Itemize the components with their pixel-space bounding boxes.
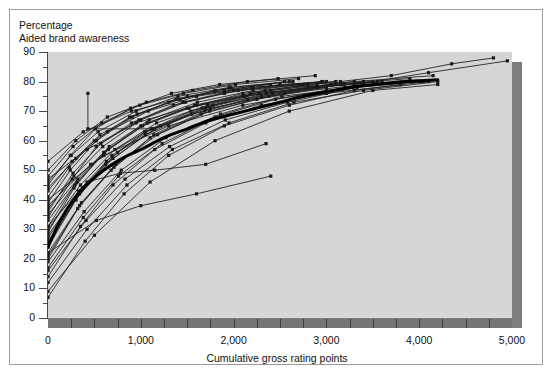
data-point-marker — [48, 281, 50, 284]
data-point-marker — [353, 80, 356, 83]
data-point-marker — [82, 216, 85, 219]
data-point-marker — [362, 89, 365, 92]
data-point-marker — [72, 175, 75, 178]
data-point-marker — [48, 198, 50, 201]
data-point-marker — [101, 145, 104, 148]
data-point-marker — [371, 89, 374, 92]
data-point-marker — [161, 142, 164, 145]
data-point-marker — [86, 92, 89, 95]
data-point-marker — [280, 95, 283, 98]
x-tick-label: 5,000 — [482, 334, 542, 346]
data-point-marker — [106, 115, 109, 118]
data-point-marker — [48, 204, 50, 207]
data-point-marker — [145, 101, 148, 104]
data-point-marker — [209, 107, 212, 110]
data-point-marker — [195, 104, 198, 107]
data-point-marker — [130, 110, 133, 113]
data-point-marker — [186, 95, 189, 98]
data-point-marker — [224, 118, 227, 121]
data-point-marker — [48, 189, 50, 192]
data-point-marker — [189, 110, 192, 113]
series-20 — [48, 80, 425, 263]
y-tick-major — [39, 229, 48, 230]
y-tick-label: 60 — [5, 134, 35, 146]
x-band-tick — [442, 319, 443, 328]
data-point-marker — [432, 74, 435, 77]
data-point-marker — [97, 130, 100, 133]
data-point-marker — [213, 139, 216, 142]
data-point-marker — [229, 86, 232, 89]
y-tick-label: 10 — [5, 281, 35, 293]
data-point-marker — [125, 183, 128, 186]
data-point-marker — [283, 92, 286, 95]
data-point-marker — [89, 163, 92, 166]
data-point-marker — [48, 183, 50, 186]
x-tick-label: 2,000 — [204, 334, 264, 346]
data-point-marker — [123, 192, 126, 195]
x-band-tick — [71, 319, 72, 328]
data-point-marker — [48, 177, 50, 180]
data-point-marker — [251, 89, 254, 92]
data-point-marker — [85, 148, 88, 151]
data-point-marker — [48, 169, 50, 172]
data-point-marker — [95, 219, 98, 222]
data-point-marker — [171, 148, 174, 151]
x-tick-label: 4,000 — [389, 334, 449, 346]
data-point-marker — [492, 56, 495, 59]
chart-svg — [48, 52, 512, 318]
data-point-marker — [167, 124, 170, 127]
y-tick-label: 20 — [5, 252, 35, 264]
data-point-marker — [450, 62, 453, 65]
data-point-marker — [227, 121, 230, 124]
chart-page: Percentage Aided brand awareness 0102030… — [0, 0, 554, 376]
data-point-marker — [269, 89, 272, 92]
x-band-tick — [94, 319, 95, 328]
data-point-marker — [48, 213, 50, 216]
data-point-marker — [314, 74, 317, 77]
y-tick-major — [39, 259, 48, 260]
y-tick-major — [39, 318, 48, 319]
data-point-marker — [48, 251, 50, 254]
data-point-marker — [119, 172, 122, 175]
data-point-marker — [195, 192, 198, 195]
data-point-marker — [48, 296, 50, 299]
data-point-marker — [84, 240, 87, 243]
series-4 — [48, 80, 374, 234]
data-point-marker — [123, 177, 126, 180]
data-point-marker — [241, 104, 244, 107]
x-axis-title: Cumulative gross rating points — [0, 352, 554, 365]
x-band-tick — [187, 319, 188, 328]
x-band-tick — [118, 319, 119, 328]
data-point-marker — [219, 112, 222, 115]
data-point-marker — [436, 83, 439, 86]
x-band-tick — [234, 319, 235, 328]
x-band-tick — [326, 319, 327, 328]
data-point-marker — [167, 154, 170, 157]
plot-wrapper — [48, 52, 522, 328]
x-band-tick — [466, 319, 467, 328]
data-point-marker — [153, 169, 156, 172]
y-tick-label: 30 — [5, 222, 35, 234]
data-point-marker — [116, 151, 119, 154]
data-point-marker — [48, 269, 50, 272]
y-tick-major — [39, 200, 48, 201]
data-point-marker — [71, 172, 74, 175]
data-point-marker — [48, 207, 50, 210]
data-point-marker — [155, 121, 158, 124]
series-33 — [339, 56, 495, 83]
data-point-marker — [152, 133, 155, 136]
data-point-marker — [196, 101, 199, 104]
data-point-marker — [71, 145, 74, 148]
x-band-tick — [257, 319, 258, 328]
y-tick-major — [39, 141, 48, 142]
data-point-marker — [288, 110, 291, 113]
data-point-marker — [269, 175, 272, 178]
y-tick-major — [39, 52, 48, 53]
data-point-marker — [74, 139, 77, 142]
data-point-marker — [506, 59, 509, 62]
data-point-marker — [48, 219, 50, 222]
data-point-marker — [69, 154, 72, 157]
series-line — [340, 58, 493, 82]
data-point-marker — [148, 180, 151, 183]
data-point-marker — [325, 80, 328, 83]
